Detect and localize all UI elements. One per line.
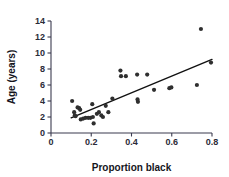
x-axis-title: Proportion black — [92, 162, 172, 173]
data-point — [119, 74, 123, 78]
x-tick-label: 0.6 — [165, 137, 178, 147]
y-tick-label: 6 — [40, 80, 45, 90]
data-point — [92, 121, 96, 125]
data-point — [90, 102, 94, 106]
y-tick-label: 2 — [40, 112, 45, 122]
x-tick-label: 0 — [48, 137, 53, 147]
data-point — [104, 104, 108, 108]
data-point — [106, 110, 110, 114]
data-point — [145, 73, 149, 77]
y-tick-label: 4 — [40, 96, 45, 106]
data-point — [195, 83, 199, 87]
data-point — [70, 99, 74, 103]
data-point — [124, 74, 128, 78]
data-point — [152, 88, 156, 92]
regression-line — [71, 59, 212, 117]
data-point — [101, 115, 105, 119]
y-tick-label: 0 — [40, 128, 45, 138]
y-axis-title: Age (years) — [6, 50, 17, 104]
data-point — [118, 69, 122, 73]
data-point — [136, 100, 140, 104]
data-point — [73, 114, 77, 118]
y-tick-label: 10 — [35, 48, 45, 58]
data-point — [135, 73, 139, 77]
data-point — [110, 97, 114, 101]
scatter-chart: 0246810121400.20.40.60.8Proportion black… — [0, 0, 229, 177]
y-tick-label: 14 — [35, 16, 45, 26]
y-tick-label: 8 — [40, 64, 45, 74]
data-point — [91, 115, 95, 119]
data-point — [169, 85, 173, 89]
y-tick-label: 12 — [35, 32, 45, 42]
chart-canvas: 0246810121400.20.40.60.8Proportion black… — [0, 0, 229, 177]
x-tick-label: 0.4 — [125, 137, 138, 147]
data-point — [209, 61, 213, 65]
x-tick-label: 0.2 — [85, 137, 98, 147]
data-point — [78, 108, 82, 112]
data-point — [199, 27, 203, 31]
x-tick-label: 0.8 — [206, 137, 219, 147]
